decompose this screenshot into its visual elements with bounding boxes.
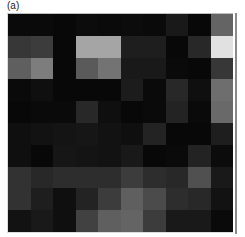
heatmap-cell [76, 79, 99, 101]
heatmap-cell [31, 123, 54, 145]
heatmap-cell [121, 210, 144, 232]
heatmap-cell [31, 210, 54, 232]
heatmap-cell [143, 188, 166, 210]
heatmap-cell [76, 167, 99, 189]
heatmap-cell [121, 145, 144, 167]
heatmap-cell [98, 36, 121, 58]
heatmap-cell [31, 167, 54, 189]
heatmap-cell [143, 79, 166, 101]
heatmap-cell [98, 58, 121, 80]
heatmap-cell [166, 210, 189, 232]
heatmap-cell [143, 58, 166, 80]
heatmap-cell [8, 145, 31, 167]
heatmap-cell [8, 167, 31, 189]
heatmap-cell [188, 36, 211, 58]
heatmap-cell [188, 210, 211, 232]
heatmap-cell [76, 101, 99, 123]
heatmap-cell [166, 79, 189, 101]
heatmap-cell [76, 210, 99, 232]
heatmap-cell [8, 36, 31, 58]
heatmap-cell [76, 123, 99, 145]
heatmap-cell [121, 36, 144, 58]
heatmap-cell [166, 145, 189, 167]
heatmap-cell [166, 167, 189, 189]
heatmap-cell [121, 14, 144, 36]
right-border-line [235, 13, 237, 234]
heatmap-cell [166, 101, 189, 123]
heatmap-cell [98, 123, 121, 145]
heatmap-cell [211, 123, 234, 145]
heatmap-cell [211, 79, 234, 101]
heatmap-cell [211, 210, 234, 232]
heatmap-cell [8, 123, 31, 145]
heatmap-cell [53, 14, 76, 36]
heatmap-cell [143, 145, 166, 167]
heatmap-cell [98, 145, 121, 167]
heatmap-cell [211, 58, 234, 80]
heatmap-cell [188, 188, 211, 210]
heatmap-cell [121, 188, 144, 210]
heatmap-cell [53, 101, 76, 123]
heatmap-cell [166, 188, 189, 210]
heatmap-cell [8, 14, 31, 36]
heatmap-cell [188, 167, 211, 189]
heatmap-cell [121, 167, 144, 189]
heatmap-cell [76, 36, 99, 58]
heatmap-cell [31, 14, 54, 36]
heatmap-cell [98, 14, 121, 36]
heatmap-cell [76, 188, 99, 210]
heatmap-cell [98, 210, 121, 232]
heatmap-cell [166, 58, 189, 80]
heatmap-cell [121, 58, 144, 80]
heatmap-cell [8, 210, 31, 232]
heatmap-cell [53, 167, 76, 189]
heatmap-cell [188, 101, 211, 123]
heatmap-cell [53, 58, 76, 80]
heatmap-cell [31, 145, 54, 167]
heatmap-cell [211, 145, 234, 167]
heatmap-grid [8, 14, 233, 232]
heatmap-cell [211, 14, 234, 36]
heatmap-cell [98, 101, 121, 123]
heatmap-cell [166, 14, 189, 36]
heatmap-cell [188, 123, 211, 145]
heatmap-cell [143, 123, 166, 145]
heatmap-cell [76, 14, 99, 36]
heatmap-cell [8, 79, 31, 101]
heatmap-cell [188, 79, 211, 101]
heatmap-cell [98, 188, 121, 210]
heatmap-cell [211, 167, 234, 189]
heatmap-cell [8, 188, 31, 210]
heatmap-cell [166, 36, 189, 58]
heatmap-cell [143, 210, 166, 232]
heatmap-cell [188, 58, 211, 80]
heatmap-cell [121, 123, 144, 145]
heatmap-cell [98, 167, 121, 189]
heatmap-cell [76, 58, 99, 80]
heatmap-cell [76, 145, 99, 167]
heatmap-cell [98, 79, 121, 101]
heatmap-cell [121, 101, 144, 123]
heatmap-cell [143, 167, 166, 189]
heatmap-cell [31, 36, 54, 58]
heatmap-cell [211, 101, 234, 123]
heatmap-cell [143, 36, 166, 58]
heatmap-cell [53, 145, 76, 167]
heatmap-cell [188, 14, 211, 36]
heatmap-cell [53, 210, 76, 232]
heatmap-cell [143, 101, 166, 123]
heatmap-cell [31, 101, 54, 123]
heatmap-cell [31, 79, 54, 101]
heatmap-cell [8, 101, 31, 123]
panel-label: (a) [7, 0, 19, 11]
heatmap-cell [31, 58, 54, 80]
heatmap-cell [211, 36, 234, 58]
heatmap-cell [53, 188, 76, 210]
heatmap-cell [121, 79, 144, 101]
heatmap-cell [211, 188, 234, 210]
heatmap-cell [188, 145, 211, 167]
heatmap-cell [53, 79, 76, 101]
heatmap-cell [31, 188, 54, 210]
heatmap-cell [53, 123, 76, 145]
heatmap-cell [143, 14, 166, 36]
